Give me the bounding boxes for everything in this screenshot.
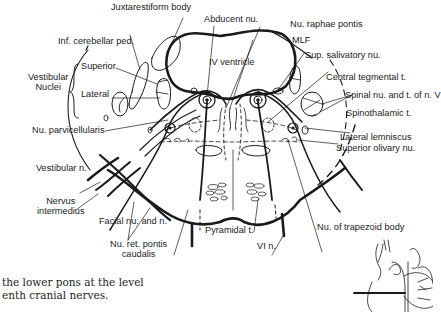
label-nu-parvicellularis: Nu. parvicellularis <box>32 125 105 135</box>
label-juxtarestiform-body: Juxtarestiform body <box>111 2 191 12</box>
label-vestibular-nuclei-line1: Vestibular <box>28 72 68 82</box>
inset-brainstem-sketch <box>354 240 433 312</box>
label-spinal-nu-and-t-of-n-v: Spinal nu. and t. of n. V <box>345 90 441 100</box>
label-facial-nu-and-n: Facial nu. and n. <box>99 216 167 226</box>
label-abducent-nu: Abducent nu. <box>204 14 258 24</box>
label-nervus-intermedius: Nervus intermedius <box>37 196 85 216</box>
caption-line2: enth cranial nerves. <box>2 289 108 301</box>
label-superior: Superior <box>81 61 116 71</box>
label-inf-cerebellar-ped: Inf. cerebellar ped. <box>58 36 134 46</box>
label-iv-ventricle: IV ventricle <box>209 57 254 67</box>
inf-cerebellar-peduncle <box>129 62 148 108</box>
label-nu-ret-pontis-caudalis: Nu. ret. pontis caudalis <box>110 239 167 259</box>
label-sup-salivatory-nu: Sup. salivatory nu. <box>305 50 381 60</box>
caption-line1: the lower pons at the level <box>2 276 144 288</box>
label-nu-ret-pontis-line1: Nu. ret. pontis <box>110 239 167 249</box>
label-superior-olivary-nu: Superior olivary nu. <box>336 143 415 153</box>
label-vestibular-n: Vestibular n. <box>36 163 87 173</box>
label-pyramidal-t: Pyramidal t. <box>205 225 254 235</box>
figure-caption: the lower pons at the level enth cranial… <box>2 276 144 302</box>
label-central-tegmental-t: Central tegmental t. <box>326 72 406 82</box>
label-lateral-lemniscus: Lateral lemniscus <box>340 132 412 142</box>
vestibular-nuclei-bracket <box>70 64 78 118</box>
label-mlf: MLF <box>292 35 310 45</box>
label-nu-ret-pontis-line2: caudalis <box>122 249 156 259</box>
label-nervus-intermedius-line1: Nervus <box>46 196 75 206</box>
label-vi-n: VI n. <box>257 241 276 251</box>
label-lateral: Lateral <box>81 89 109 99</box>
label-nervus-intermedius-line2: intermedius <box>37 206 85 216</box>
label-vestibular-nuclei: Vestibular Nuclei <box>28 72 68 92</box>
label-spinothalamic-t: Spinothalamic t. <box>346 108 411 118</box>
label-nu-raphae-pontis: Nu. raphae pontis <box>290 19 363 29</box>
label-nu-of-trapezoid-body: Nu. of trapezoid body <box>317 222 404 232</box>
label-vestibular-nuclei-line2: Nuclei <box>35 82 61 92</box>
